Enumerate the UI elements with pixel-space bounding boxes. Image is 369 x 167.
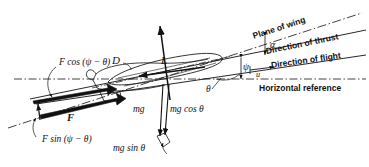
label-u: u [256, 71, 260, 79]
label-f-sin-psi-minus-theta: F sin (ψ − θ) [42, 135, 92, 145]
mg-cos-theta-arrow [157, 84, 170, 147]
label-horizontal-reference: Horizontal reference [259, 84, 341, 93]
label-mg-sin-theta: mg sin θ [113, 144, 145, 154]
label-thrust-F: F [67, 113, 74, 124]
f-sin-component-arrow [33, 104, 40, 137]
label-f-cos-psi-minus-theta: F cos (ψ − θ) [59, 58, 110, 68]
label-mg-cos-theta: mg cos θ [170, 105, 204, 115]
figure-canvas: Plane of wing Direction of thrust Direct… [0, 0, 369, 167]
label-theta: θ [206, 85, 211, 95]
label-drag-D: D [112, 55, 120, 66]
label-mg: mg [133, 105, 145, 115]
label-psi: ψ [243, 63, 249, 73]
label-alpha: α [270, 40, 275, 50]
label-lift-L: L [161, 55, 167, 66]
weight-force-arrow [160, 84, 163, 136]
theta-angle-marker [212, 74, 240, 89]
